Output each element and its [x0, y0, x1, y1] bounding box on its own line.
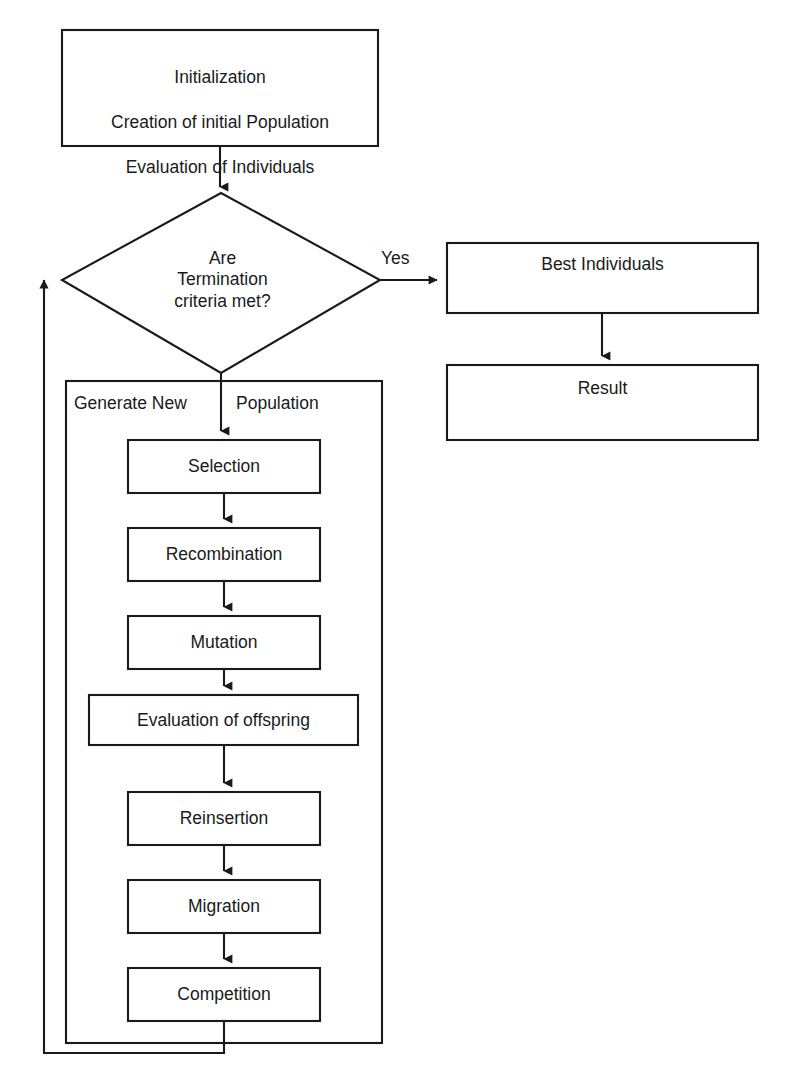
migration-box-shape — [128, 880, 320, 933]
reinsertion-box-shape — [128, 792, 320, 845]
initialization-box-shape — [62, 30, 378, 146]
competition-box-shape — [128, 968, 320, 1021]
decision-diamond-shape — [62, 193, 380, 373]
result-box-shape — [447, 365, 758, 440]
flowchart-canvas: Initialization Creation of initial Popul… — [0, 0, 795, 1088]
mutation-box-shape — [128, 616, 320, 669]
flowchart-vector-layer — [0, 0, 795, 1088]
evaluation-of-offspring-box-shape — [89, 695, 358, 745]
recombination-box-shape — [128, 528, 320, 581]
selection-box-shape — [128, 440, 320, 493]
best-individuals-box-shape — [447, 243, 758, 313]
edge-feedback-loop — [44, 280, 224, 1053]
